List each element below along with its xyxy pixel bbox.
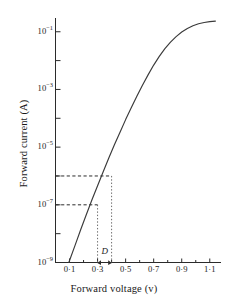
x-tick-label: 0·3 xyxy=(83,265,113,274)
y-axis-title: Forward current (A) xyxy=(18,59,29,229)
forward-characteristic-chart: 10−1 10−3 10−5 10−7 10−9 0·1 0·3 0·5 0·7… xyxy=(0,0,228,303)
chart-canvas xyxy=(0,0,228,303)
y-tick-label: 10−3 xyxy=(38,84,53,93)
y-major-ticks xyxy=(56,32,61,263)
x-tick-label: 0·1 xyxy=(55,265,85,274)
x-tick-label: 0·7 xyxy=(139,265,169,274)
x-axis-title: Forward voltage (v) xyxy=(0,283,228,294)
y-tick-label: 10−7 xyxy=(38,200,53,209)
x-tick-label: 0·5 xyxy=(111,265,141,274)
d-annotation-label: D xyxy=(102,247,109,256)
y-tick-label: 10−5 xyxy=(38,142,53,151)
y-tick-label: 10−1 xyxy=(38,27,53,36)
data-curve xyxy=(69,21,216,262)
x-tick-label: 1·1 xyxy=(195,265,225,274)
x-tick-label: 0·9 xyxy=(167,265,197,274)
y-tick-label: 10−9 xyxy=(38,258,53,267)
